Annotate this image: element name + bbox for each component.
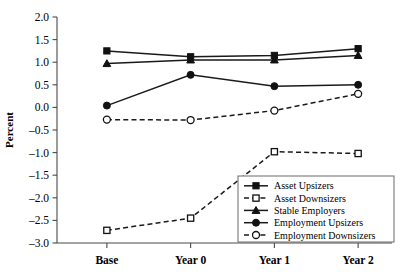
series-line-asset-upsizers [107, 49, 358, 57]
legend-label-employment-upsizers: Employment Upsizers [274, 217, 363, 228]
line-chart: 2.01.51.00.50.0–0.5–1.0–1.5–2.0–2.5–3.0 … [0, 0, 400, 278]
chart-legend: Asset UpsizersAsset DownsizersStable Emp… [238, 176, 394, 242]
y-tick-label: 1.5 [35, 34, 50, 46]
marker-asset-downsizers-pt0 [104, 227, 110, 233]
x-tick-label-year-2: Year 2 [342, 254, 374, 266]
y-tick-label: –0.5 [28, 124, 49, 136]
marker-employment-upsizers-pt0 [103, 102, 110, 109]
legend-label-stable-employers: Stable Employers [274, 205, 345, 216]
y-tick-label: –1.0 [28, 147, 49, 159]
marker-employment-upsizers-pt3 [355, 81, 362, 88]
x-tick-label-year-0: Year 0 [175, 254, 207, 266]
marker-employment-upsizers-pt2 [271, 83, 278, 90]
legend-label-asset-upsizers: Asset Upsizers [274, 180, 334, 191]
marker-employment-downsizers-pt1 [187, 117, 194, 124]
y-tick-label: –2.0 [28, 192, 49, 204]
marker-employment-downsizers-pt3 [355, 90, 362, 97]
x-tick-label-year-1: Year 1 [259, 254, 291, 266]
y-tick-label: 0.0 [35, 101, 50, 113]
marker-asset-upsizers-pt0 [104, 48, 110, 54]
y-axis-label: Percent [3, 112, 15, 148]
marker-legend-employment-upsizers [253, 219, 260, 226]
marker-legend-asset-downsizers [253, 195, 259, 201]
marker-legend-employment-downsizers [253, 232, 260, 239]
series-employment-downsizers [103, 90, 361, 123]
marker-legend-asset-upsizers [253, 183, 259, 189]
y-tick-label: 1.0 [35, 56, 50, 68]
series-line-employment-downsizers [107, 94, 358, 120]
y-tick-label: 0.5 [35, 79, 50, 91]
y-tick-label: –1.5 [28, 169, 49, 181]
legend-label-asset-downsizers: Asset Downsizers [274, 193, 346, 204]
marker-employment-upsizers-pt1 [187, 71, 194, 78]
chart-container: 2.01.51.00.50.0–0.5–1.0–1.5–2.0–2.5–3.0 … [0, 0, 400, 278]
y-axis: 2.01.51.00.50.0–0.5–1.0–1.5–2.0–2.5–3.0 [28, 11, 57, 249]
x-axis: BaseYear 0Year 1Year 2 [57, 243, 392, 266]
y-tick-label: –3.0 [28, 237, 49, 249]
series-employment-upsizers [103, 71, 361, 109]
y-tick-label: 2.0 [35, 11, 50, 23]
marker-employment-downsizers-pt2 [271, 107, 278, 114]
x-tick-label-base: Base [95, 254, 118, 266]
marker-asset-downsizers-pt3 [355, 150, 361, 156]
legend-label-employment-downsizers: Employment Downsizers [274, 230, 375, 241]
y-tick-label: –2.5 [28, 214, 49, 226]
marker-employment-downsizers-pt0 [103, 116, 110, 123]
marker-asset-downsizers-pt2 [271, 149, 277, 155]
marker-asset-downsizers-pt1 [188, 215, 194, 221]
